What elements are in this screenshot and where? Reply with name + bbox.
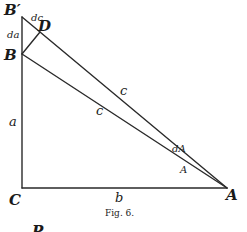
- label-vertex-a: A: [226, 188, 238, 203]
- label-b: B: [4, 48, 17, 63]
- hypotenuse-outer: [22, 17, 227, 188]
- figure-caption: Fig. 6.: [105, 208, 134, 218]
- hypotenuse-inner: [22, 54, 227, 188]
- partial-footer-letter: P: [32, 224, 43, 232]
- label-c-inner: c: [96, 104, 103, 117]
- label-angle-a: A: [180, 165, 187, 175]
- label-b-side: b: [115, 191, 123, 204]
- label-dA: dA: [172, 144, 186, 154]
- label-b-prime: B′: [4, 3, 21, 18]
- label-c-outer: c: [120, 84, 127, 97]
- label-c: C: [9, 193, 21, 208]
- perpendicular-BD: [22, 32, 40, 54]
- label-d: D: [38, 19, 51, 34]
- label-da: da: [7, 30, 19, 40]
- label-a: a: [9, 115, 17, 128]
